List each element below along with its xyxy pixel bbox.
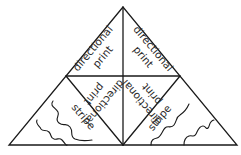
region-top-right: directional print: [121, 23, 176, 81]
triangle-pattern-diagram: directional print directional print dire…: [0, 0, 241, 155]
wavy-stripe-line-2: [37, 120, 67, 145]
region-top-left: directional print: [70, 23, 125, 81]
region-bottom-left: stripe: [37, 101, 98, 145]
wavy-stripe-line-2: [184, 120, 214, 145]
